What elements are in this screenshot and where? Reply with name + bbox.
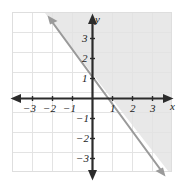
- y-tick-label-3: 3: [82, 33, 88, 44]
- x-tick-label-neg1: −1: [63, 103, 76, 114]
- graph-figure: −3 −2 −1 1 2 3 3 2 1 −1 −2 −3 x y: [0, 0, 186, 189]
- y-tick-label-neg3: −3: [76, 153, 89, 164]
- y-axis-arrow-down: [88, 170, 97, 181]
- y-tick-label-neg2: −2: [76, 133, 89, 144]
- y-axis-label: y: [95, 14, 100, 25]
- x-tick-label-3: 3: [150, 103, 156, 114]
- x-tick-label-1: 1: [110, 103, 116, 114]
- y-tick-label-2: 2: [82, 53, 88, 64]
- x-axis-label: x: [170, 101, 175, 112]
- coordinate-plane: [0, 0, 186, 189]
- x-tick-label-neg2: −2: [43, 103, 56, 114]
- x-tick-label-2: 2: [130, 103, 136, 114]
- x-tick-label-neg3: −3: [23, 103, 36, 114]
- y-tick-label-neg1: −1: [76, 113, 89, 124]
- y-tick-label-1: 1: [82, 73, 88, 84]
